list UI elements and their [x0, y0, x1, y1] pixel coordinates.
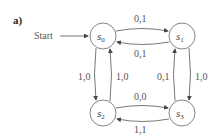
edge-label-s2-s3: 0,0	[134, 91, 147, 102]
edge-s3-s2	[117, 119, 169, 122]
edge-label-s1-s3: 1,0	[195, 71, 208, 82]
edge-s0-s2	[95, 48, 97, 100]
state-s1: s1	[169, 23, 195, 49]
edge-s1-s3	[189, 48, 191, 100]
state-diagram: a) Start s0 s1 s2 s3 0,1 0,1 1,0 1,0 0,1…	[0, 0, 217, 136]
state-s0: s0	[90, 23, 116, 49]
edge-s1-s0	[117, 42, 169, 45]
edge-s2-s3	[116, 106, 168, 109]
edge-s0-s1	[116, 29, 168, 32]
edge-label-s0-s2: 1,0	[78, 71, 91, 82]
edge-label-s2-s0: 1,0	[116, 71, 129, 82]
start-label: Start	[34, 30, 53, 41]
state-s2: s2	[90, 100, 116, 126]
edge-label-s0-s1: 0,1	[134, 13, 147, 24]
state-s3: s3	[169, 100, 195, 126]
edge-label-s1-s0: 0,1	[134, 48, 147, 59]
panel-label: a)	[13, 14, 23, 27]
edge-label-s3-s2: 1,1	[134, 124, 147, 135]
edge-s2-s0	[110, 49, 112, 101]
edge-s3-s1	[174, 49, 176, 101]
edge-label-s3-s1: 0,1	[157, 71, 170, 82]
